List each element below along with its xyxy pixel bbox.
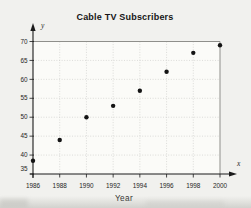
x-tick-label: 1988 — [53, 182, 68, 189]
y-axis-arrow — [30, 23, 35, 31]
chart-title: Cable TV Subscribers — [76, 12, 173, 22]
x-axis-letter: x — [236, 159, 241, 168]
y-tick-label: 65 — [20, 57, 28, 64]
y-tick-label: 40 — [20, 151, 28, 158]
x-tick-label: 1996 — [159, 182, 174, 189]
scatter-chart: 3540455055606570198619881990199219941996… — [0, 0, 251, 208]
data-point — [138, 89, 142, 93]
y-tick-label: 35 — [20, 165, 28, 172]
data-point — [191, 51, 195, 55]
data-point — [218, 43, 222, 47]
y-tick-label: 55 — [20, 94, 28, 101]
data-point — [164, 70, 168, 74]
y-tick-label: 50 — [20, 113, 28, 120]
data-point — [84, 115, 88, 119]
y-tick-label: 70 — [20, 38, 28, 45]
y-tick-label: 45 — [20, 132, 28, 139]
x-tick-label: 2000 — [213, 182, 228, 189]
x-axis-arrow — [229, 171, 237, 176]
x-tick-label: 1998 — [186, 182, 201, 189]
textbook-scan-figure: 3540455055606570198619881990199219941996… — [0, 0, 251, 208]
x-tick-label: 1986 — [26, 182, 41, 189]
x-tick-label: 1994 — [133, 182, 148, 189]
plot-area — [33, 42, 220, 175]
y-axis-letter: y — [40, 21, 45, 30]
x-axis-title: Year — [115, 194, 133, 203]
y-tick-label: 60 — [20, 76, 28, 83]
x-tick-label: 1992 — [106, 182, 121, 189]
x-tick-label: 1990 — [79, 182, 94, 189]
data-point — [111, 104, 115, 108]
data-point — [58, 138, 62, 142]
data-point — [31, 159, 35, 163]
